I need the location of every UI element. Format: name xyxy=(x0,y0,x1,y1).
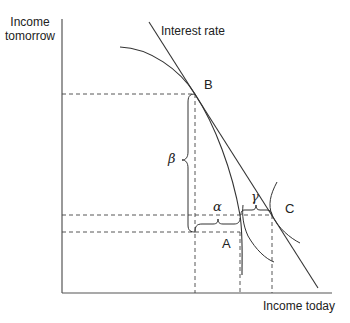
point-b-label: B xyxy=(204,78,213,92)
point-c-label: C xyxy=(285,202,294,216)
y-axis-label: Income tomorrow xyxy=(3,15,57,43)
beta-label: β xyxy=(168,152,176,166)
beta-brace xyxy=(182,94,195,232)
gamma-brace xyxy=(241,205,272,215)
alpha-brace xyxy=(195,218,240,232)
interest-rate-label: Interest rate xyxy=(161,24,225,38)
alpha-label: α xyxy=(213,200,222,214)
y-axis-label-line2: tomorrow xyxy=(3,29,57,43)
x-axis-label: Income today xyxy=(263,299,335,313)
indifference-curve-a xyxy=(243,205,274,262)
gamma-label: γ xyxy=(251,190,259,204)
y-axis-label-line1: Income xyxy=(3,15,57,29)
point-a-label: A xyxy=(222,237,231,251)
